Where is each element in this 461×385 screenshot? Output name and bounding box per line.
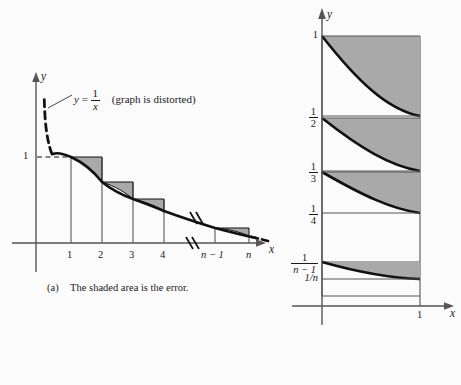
- fraction-one-third-num: 1: [309, 161, 318, 172]
- equation-leader-line: [48, 95, 72, 108]
- panel-a-xtick-n: n: [246, 249, 251, 260]
- fraction-one-half: 1 2: [309, 106, 318, 129]
- x-axis: [12, 239, 266, 247]
- equation-note: (graph is distorted): [112, 93, 196, 105]
- panel-a-caption: (a) The shaded area is the error.: [47, 282, 287, 295]
- equation-y: y: [74, 93, 79, 105]
- y-axis: [32, 72, 40, 272]
- hyperbola-curve: [53, 153, 256, 238]
- panel-b-xtick-1: 1: [417, 309, 422, 320]
- fraction-one-fourth: 1 4: [309, 203, 318, 226]
- panel-b-x-axis-label: x: [450, 307, 455, 319]
- fraction-one-fourth-num: 1: [309, 203, 318, 214]
- panel-a-xtick-n-minus-1: n − 1: [201, 249, 224, 260]
- fraction-one-half-num: 1: [309, 106, 318, 117]
- panel-a-y-axis-label: y: [41, 70, 46, 82]
- panel-a-ytick-1: 1: [23, 150, 28, 161]
- panel-b-ytick-one-over-n: 1/n: [286, 272, 318, 283]
- fraction-one-third-den: 3: [309, 172, 318, 184]
- panel-b-y-axis-label: y: [327, 8, 332, 20]
- panel-a-equation-label: y = 1 x (graph is distorted): [74, 88, 196, 112]
- error-band-3: [322, 172, 420, 213]
- panel-b-x-axis: [292, 302, 454, 310]
- panel-b-ytick-one-fourth: 1 4: [292, 203, 318, 226]
- panel-a-xtick-2: 2: [98, 249, 103, 260]
- panel-b-ytick-one-half: 1 2: [292, 106, 318, 129]
- panel-a-caption-label: (a): [47, 282, 59, 293]
- error-band-n: [322, 262, 420, 279]
- figure-panel-b: y x 1 1 1 2 1 3 1 4 1 n − 1 1/n (b) A cl…: [278, 0, 461, 385]
- fraction-n-minus-one-num: 1: [291, 252, 318, 263]
- panel-a-xtick-1: 1: [67, 249, 72, 260]
- panel-a-caption-text: The shaded area is the error.: [70, 282, 188, 293]
- equation-denominator: x: [91, 100, 101, 113]
- error-band-1: [322, 36, 420, 116]
- error-shaded-regions: [71, 157, 249, 236]
- equation-fraction: 1 x: [91, 88, 101, 112]
- panel-a-xtick-4: 4: [160, 249, 165, 260]
- hyperbola-dashed-right: [252, 237, 268, 241]
- panel-a-plot: [0, 0, 295, 280]
- panel-b-ytick-one-third: 1 3: [292, 161, 318, 184]
- error-band-2: [322, 118, 420, 171]
- equation-equals: =: [82, 93, 88, 105]
- fraction-one-half-den: 2: [309, 117, 318, 129]
- panel-a-xtick-3: 3: [129, 249, 134, 260]
- fraction-one-third: 1 3: [309, 161, 318, 184]
- equation-numerator: 1: [91, 88, 101, 100]
- figure-panel-a: y x 1 1 2 3 4 n − 1 n y = 1 x (graph is …: [0, 0, 295, 330]
- curve-break-marker: [190, 212, 203, 224]
- panel-b-ytick-1: 1: [294, 29, 318, 40]
- fraction-one-fourth-den: 4: [309, 214, 318, 226]
